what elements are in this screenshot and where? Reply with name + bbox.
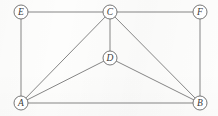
- node-label-c: C: [107, 7, 114, 17]
- node-label-f: F: [196, 7, 203, 17]
- graph-node-c: C: [103, 5, 117, 19]
- graph-edge-d-b: [116, 61, 193, 100]
- node-layer: ECFDAB: [14, 5, 207, 110]
- graph-edge-c-b: [115, 17, 195, 98]
- graph-node-f: F: [193, 5, 207, 19]
- graph-node-e: E: [14, 5, 28, 19]
- graph-node-b: B: [193, 96, 207, 110]
- graph-canvas: ECFDAB: [0, 0, 218, 116]
- node-label-b: B: [197, 98, 203, 108]
- graph-edge-a-c: [26, 17, 105, 98]
- node-label-e: E: [17, 7, 24, 17]
- graph-node-a: A: [14, 96, 28, 110]
- graph-node-d: D: [103, 51, 117, 65]
- graph-edge-a-d: [27, 61, 104, 100]
- node-label-d: D: [106, 53, 114, 63]
- node-label-a: A: [17, 98, 24, 108]
- graph-figure: ECFDAB: [0, 0, 218, 116]
